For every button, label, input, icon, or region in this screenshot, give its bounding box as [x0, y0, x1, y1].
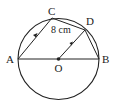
label-o: O	[55, 62, 63, 74]
circle-diagram: C D A B O 8 cm	[0, 0, 119, 109]
label-c: C	[48, 5, 55, 17]
measurement-cd: 8 cm	[51, 24, 71, 35]
label-a: A	[6, 53, 14, 65]
label-b: B	[102, 53, 109, 65]
label-d: D	[86, 15, 94, 27]
center-point-o	[57, 57, 61, 61]
